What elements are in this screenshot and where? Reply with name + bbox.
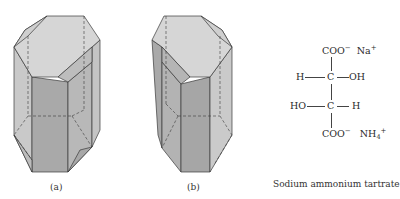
row2-right-atom: H xyxy=(352,100,360,111)
bond-row2-left xyxy=(307,106,325,107)
bond-top-vertical xyxy=(331,57,332,71)
top-charge: − xyxy=(345,44,351,52)
bottom-carboxylate: COO− NH4+ xyxy=(322,128,386,139)
bond-row1-left xyxy=(305,77,325,78)
row1-left-atom: H xyxy=(296,71,304,82)
figure-caption: Sodium ammonium tartrate xyxy=(273,179,400,189)
sodium-ion: Na xyxy=(357,45,371,56)
row1-right-group: OH xyxy=(349,71,365,82)
ammonium-subscript: 4 xyxy=(376,133,380,141)
bond-row2-right xyxy=(337,106,349,107)
panel-b-label: (b) xyxy=(187,182,200,192)
top-carboxylate-group: COO xyxy=(322,45,345,56)
top-carboxylate: COO− Na+ xyxy=(322,45,377,56)
row2-carbon: C xyxy=(327,100,334,111)
ammonium-ion: NH xyxy=(360,128,377,139)
bottom-charge: − xyxy=(345,127,351,135)
sodium-charge: + xyxy=(371,44,377,52)
ammonium-charge: + xyxy=(381,127,387,135)
bond-bottom-vertical xyxy=(331,113,332,128)
bottom-carboxylate-group: COO xyxy=(322,128,345,139)
panel-a-label: (a) xyxy=(50,182,62,192)
bond-row1-right xyxy=(337,77,349,78)
row1-carbon: C xyxy=(327,71,334,82)
bond-middle-vertical xyxy=(331,84,332,100)
row2-left-group: HO xyxy=(290,100,306,111)
